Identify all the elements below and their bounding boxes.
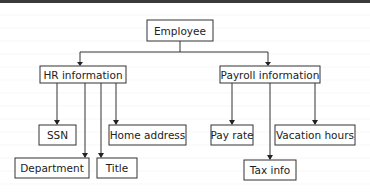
arrow-payroll bbox=[265, 62, 271, 66]
node-label: Vacation hours bbox=[276, 129, 354, 141]
node-hr-information: HR information bbox=[40, 66, 126, 83]
node-tax-info: Tax info bbox=[244, 160, 296, 180]
node-label: Title bbox=[105, 162, 129, 174]
node-label: Tax info bbox=[249, 164, 290, 176]
arrow-ssn bbox=[54, 120, 60, 125]
node-home-address: Home address bbox=[109, 125, 186, 145]
node-vacation-hours: Vacation hours bbox=[275, 125, 355, 145]
arrow-department bbox=[82, 153, 88, 158]
node-label: Home address bbox=[110, 129, 186, 141]
arrow-tax bbox=[267, 155, 273, 160]
node-ssn: SSN bbox=[39, 125, 76, 145]
node-pay-rate: Pay rate bbox=[210, 125, 253, 145]
node-label: Employee bbox=[154, 25, 206, 37]
node-label: Payroll information bbox=[221, 69, 320, 81]
node-department: Department bbox=[15, 158, 89, 178]
node-employee: Employee bbox=[147, 20, 213, 41]
arrow-title bbox=[98, 153, 104, 158]
arrow-payrate bbox=[229, 120, 235, 125]
node-label: Department bbox=[20, 162, 84, 174]
arrow-hr bbox=[77, 62, 83, 66]
node-label: SSN bbox=[47, 129, 68, 141]
arrow-vacation bbox=[312, 120, 318, 125]
node-label: Pay rate bbox=[210, 129, 253, 141]
arrow-home bbox=[113, 120, 119, 125]
node-payroll-information: Payroll information bbox=[220, 66, 320, 83]
hierarchy-diagram: Employee HR information Payroll informat… bbox=[0, 0, 370, 194]
node-title: Title bbox=[97, 158, 137, 178]
node-label: HR information bbox=[43, 69, 122, 81]
